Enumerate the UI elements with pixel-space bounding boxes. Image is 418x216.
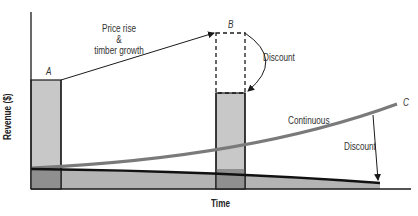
bar-b-overlap [216, 169, 245, 189]
point-b-label: B [228, 19, 233, 30]
bar-a-overlap [31, 169, 61, 189]
price-rise-label: Price rise & timber growth [90, 23, 147, 56]
revenue-time-diagram [0, 0, 418, 216]
point-a-label: A [46, 66, 51, 77]
bar-b-future-value [216, 33, 245, 93]
discount-b-label: Discount [263, 52, 295, 63]
point-c-label: C [403, 97, 409, 108]
x-axis-label: Time [211, 198, 230, 209]
y-axis-label: Revenue ($) [2, 94, 13, 140]
continuous-curve [31, 104, 397, 168]
continuous-label: Continuous [288, 115, 329, 126]
discount-c-label: Discount [344, 141, 376, 152]
